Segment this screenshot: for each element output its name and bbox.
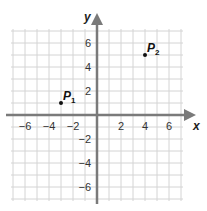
x-tick-label: −4 xyxy=(43,120,56,132)
point-subscript: 2 xyxy=(155,48,160,57)
x-tick-label: −6 xyxy=(19,120,32,132)
y-tick-label: −6 xyxy=(78,181,91,193)
y-tick-label: 4 xyxy=(85,61,91,73)
y-axis-label: y xyxy=(83,10,92,24)
y-tick-label: 6 xyxy=(85,37,91,49)
x-axis-label: x xyxy=(192,119,201,133)
x-tick-label: −2 xyxy=(67,120,80,132)
y-axis-arrow-icon xyxy=(91,13,103,25)
x-tick-label: 6 xyxy=(166,120,172,132)
y-tick-label: 2 xyxy=(85,85,91,97)
coordinate-plane: −6−4−2246642−2−4−6 P1P2 x y xyxy=(0,0,207,211)
y-tick-label: −2 xyxy=(78,133,91,145)
x-tick-label: 4 xyxy=(142,120,148,132)
point-subscript: 1 xyxy=(71,96,76,105)
y-tick-label: −4 xyxy=(78,157,91,169)
x-tick-label: 2 xyxy=(118,120,124,132)
